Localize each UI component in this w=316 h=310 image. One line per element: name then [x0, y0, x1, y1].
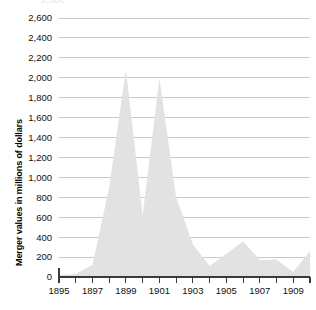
x-tick-label: 1903: [182, 285, 203, 296]
y-tick-label: 0: [47, 271, 52, 282]
x-tick-label: 1897: [82, 285, 103, 296]
y-tick-label: 800: [36, 192, 52, 203]
y-tick-label: 600: [36, 212, 52, 223]
x-tick-label: 1907: [249, 285, 270, 296]
y-tick-label: 2,400: [28, 32, 52, 43]
y-tick-label: 1,600: [28, 112, 52, 123]
y-tick-label: 2,600: [28, 12, 52, 23]
x-axis-tick-labels: 18951897189919011903190519071909: [48, 285, 303, 296]
y-tick-label: 2,200: [28, 52, 52, 63]
x-tick-label: 1901: [149, 285, 170, 296]
y-tick-label: 400: [36, 232, 52, 243]
merger-values-area-chart: 2,800 Merger values in millions of dolla…: [0, 0, 316, 310]
x-tick-label: 1899: [115, 285, 136, 296]
plot-area: 02004006008001,0001,2001,4001,6001,8002,…: [0, 0, 316, 310]
x-tick-label: 1905: [216, 285, 237, 296]
y-tick-label: 1,800: [28, 92, 52, 103]
x-tick-label: 1895: [48, 285, 69, 296]
y-tick-label: 200: [36, 251, 52, 262]
y-axis-tick-labels: 02004006008001,0001,2001,4001,6001,8002,…: [28, 12, 52, 282]
tick-marks: [59, 277, 310, 283]
y-tick-label: 2,000: [28, 72, 52, 83]
x-tick-label: 1909: [283, 285, 304, 296]
area-fill: [59, 70, 310, 277]
series-area-merger-values: [59, 70, 310, 277]
y-tick-label: 1,400: [28, 132, 52, 143]
y-tick-label: 1,000: [28, 172, 52, 183]
y-tick-label: 1,200: [28, 152, 52, 163]
